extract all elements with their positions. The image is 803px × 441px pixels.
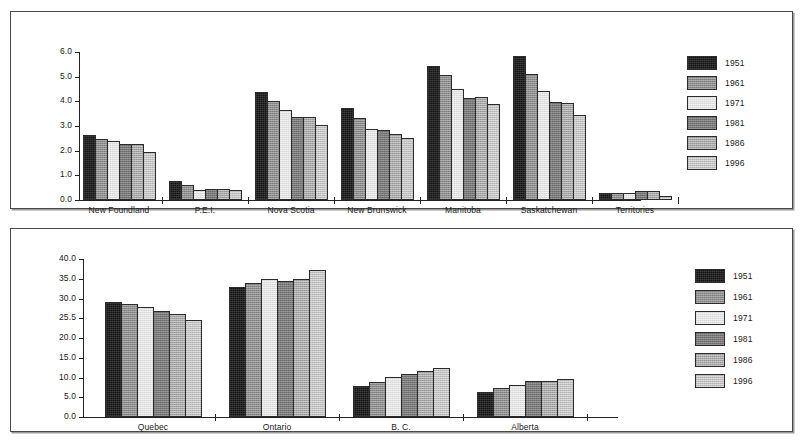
- legend-swatch-1996: [687, 156, 717, 170]
- legend-swatch-1971: [695, 311, 725, 325]
- y-tick: [79, 378, 84, 379]
- bar: [417, 371, 434, 417]
- bar: [267, 101, 280, 200]
- y-tick-label: 5.0: [39, 72, 72, 81]
- chart-panel-bottom: 40.035.030.025.520.015.010.05.00.0Quebec…: [10, 228, 793, 432]
- bar: [487, 104, 500, 200]
- y-tick: [79, 299, 84, 300]
- plot-area-bottom: 40.035.030.025.520.015.010.05.00.0Quebec…: [11, 229, 792, 431]
- category-label: Quebec: [103, 422, 203, 432]
- legend-label: 1981: [733, 334, 753, 344]
- legend-label: 1996: [725, 158, 745, 168]
- y-tick: [79, 397, 84, 398]
- bar: [185, 320, 202, 417]
- y-tick: [75, 151, 80, 152]
- bar: [229, 190, 242, 200]
- bar: [427, 66, 440, 200]
- bar: [537, 91, 550, 200]
- x-separator-tick: [506, 197, 507, 204]
- bar: [83, 135, 96, 200]
- legend-item: 1986: [687, 136, 767, 150]
- bar: [105, 302, 122, 417]
- legend-swatch-1971: [687, 96, 717, 110]
- legend-swatch-1961: [695, 290, 725, 304]
- y-tick: [75, 200, 80, 201]
- y-tick-label: 0.0: [43, 412, 76, 421]
- bar: [143, 152, 156, 200]
- y-tick: [79, 318, 84, 319]
- y-tick: [79, 259, 84, 260]
- legend-swatch-1981: [695, 332, 725, 346]
- bar: [291, 117, 304, 200]
- bar: [293, 279, 310, 417]
- y-tick-label: 0.0: [39, 195, 72, 204]
- category-label: Alberta: [475, 422, 575, 432]
- bar: [401, 138, 414, 200]
- bar: [549, 102, 562, 200]
- bar: [261, 279, 278, 417]
- legend-label: 1951: [733, 271, 753, 281]
- bar: [279, 110, 292, 200]
- x-separator-tick: [248, 197, 249, 204]
- legend-label: 1986: [725, 138, 745, 148]
- legend-item: 1971: [687, 96, 767, 110]
- bar: [561, 103, 574, 200]
- legend-label: 1971: [725, 98, 745, 108]
- bar: [277, 281, 294, 417]
- x-separator-tick: [215, 414, 216, 421]
- y-tick-label: 40.0: [43, 254, 76, 263]
- y-tick: [75, 126, 80, 127]
- bar: [153, 311, 170, 417]
- bar: [137, 307, 154, 417]
- legend-swatch-1996: [695, 374, 725, 388]
- legend-item: 1951: [695, 269, 775, 283]
- bar: [303, 117, 316, 200]
- bar: [659, 196, 672, 200]
- y-tick: [75, 101, 80, 102]
- category-label: P.E.I.: [155, 205, 255, 215]
- bar: [401, 374, 418, 417]
- legend-swatch-1951: [695, 269, 725, 283]
- bar: [635, 191, 648, 200]
- bar: [107, 141, 120, 200]
- y-tick: [75, 175, 80, 176]
- bar: [493, 388, 510, 417]
- y-tick-label: 30.0: [43, 294, 76, 303]
- legend-swatch-1951: [687, 56, 717, 70]
- legend-swatch-1961: [687, 76, 717, 90]
- y-tick-label: 6.0: [39, 47, 72, 56]
- legend-item: 1996: [687, 156, 767, 170]
- bar: [599, 193, 612, 200]
- bar: [169, 314, 186, 417]
- y-tick: [75, 52, 80, 53]
- category-label: New Brunswick: [327, 205, 427, 215]
- bar: [475, 97, 488, 200]
- category-label: Manitoba: [413, 205, 513, 215]
- legend-item: 1971: [695, 311, 775, 325]
- legend-label: 1996: [733, 376, 753, 386]
- bar: [623, 193, 636, 200]
- bar: [217, 189, 230, 200]
- x-separator-tick: [420, 197, 421, 204]
- legend-label: 1961: [733, 292, 753, 302]
- bar: [95, 139, 108, 200]
- y-tick-label: 10.0: [43, 373, 76, 382]
- legend-item: 1951: [687, 56, 767, 70]
- bar: [353, 386, 370, 417]
- bar: [433, 368, 450, 417]
- category-label: Territories: [585, 205, 685, 215]
- legend-item: 1981: [695, 332, 775, 346]
- chart-panel-top: 6.05.04.03.02.01.00.0New FoundlandP.E.I.…: [10, 11, 793, 209]
- x-separator-tick: [678, 197, 679, 204]
- y-tick: [79, 279, 84, 280]
- bar: [525, 381, 542, 417]
- bar: [385, 377, 402, 417]
- y-tick-label: 1.0: [39, 170, 72, 179]
- plot-area-top: 6.05.04.03.02.01.00.0New FoundlandP.E.I.…: [11, 12, 792, 208]
- y-tick: [75, 77, 80, 78]
- legend-label: 1971: [733, 313, 753, 323]
- bar: [229, 287, 246, 417]
- bar: [365, 129, 378, 200]
- legend-swatch-1981: [687, 116, 717, 130]
- bar: [541, 381, 558, 417]
